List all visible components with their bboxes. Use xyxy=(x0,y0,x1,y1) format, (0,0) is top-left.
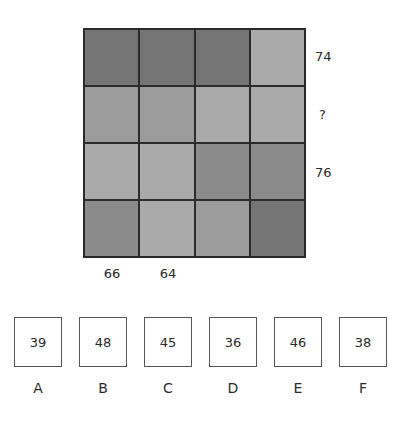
option-value: 36 xyxy=(225,335,242,350)
answer-option-d[interactable]: 36 xyxy=(209,317,257,367)
grid-cell-r3-c3 xyxy=(196,144,249,199)
grid-cell-r2-c1 xyxy=(85,87,138,142)
row-3-sum-label: 76 xyxy=(315,165,332,180)
grid-cell-r1-c3 xyxy=(196,30,249,85)
grid-cell-r2-c3 xyxy=(196,87,249,142)
grid-cell-r3-c1 xyxy=(85,144,138,199)
option-letter-d: D xyxy=(209,380,257,396)
answer-option-e[interactable]: 46 xyxy=(274,317,322,367)
option-value: 45 xyxy=(160,335,177,350)
option-value: 46 xyxy=(290,335,307,350)
shade-grid xyxy=(83,28,306,258)
grid-cell-r1-c1 xyxy=(85,30,138,85)
option-letter-f: F xyxy=(339,380,387,396)
answer-option-c[interactable]: 45 xyxy=(144,317,192,367)
option-letter-e: E xyxy=(274,380,322,396)
grid-cell-r3-c4 xyxy=(251,144,304,199)
row-1-sum-label: 74 xyxy=(315,49,332,64)
option-letter-b: B xyxy=(79,380,127,396)
grid-cell-r3-c2 xyxy=(140,144,193,199)
option-value: 39 xyxy=(30,335,47,350)
grid-cell-r4-c2 xyxy=(140,201,193,256)
answer-option-a[interactable]: 39 xyxy=(14,317,62,367)
col-1-sum-label: 66 xyxy=(84,266,140,281)
grid-cell-r1-c2 xyxy=(140,30,193,85)
grid-cell-r4-c1 xyxy=(85,201,138,256)
answer-option-b[interactable]: 48 xyxy=(79,317,127,367)
grid-cell-r1-c4 xyxy=(251,30,304,85)
answer-option-f[interactable]: 38 xyxy=(339,317,387,367)
option-letter-c: C xyxy=(144,380,192,396)
row-2-unknown-label: ? xyxy=(319,107,326,122)
grid-cell-r2-c2 xyxy=(140,87,193,142)
option-letter-a: A xyxy=(14,380,62,396)
option-value: 48 xyxy=(95,335,112,350)
grid-cell-r2-c4 xyxy=(251,87,304,142)
grid-cell-r4-c4 xyxy=(251,201,304,256)
option-value: 38 xyxy=(355,335,372,350)
col-2-sum-label: 64 xyxy=(140,266,196,281)
grid-cell-r4-c3 xyxy=(196,201,249,256)
